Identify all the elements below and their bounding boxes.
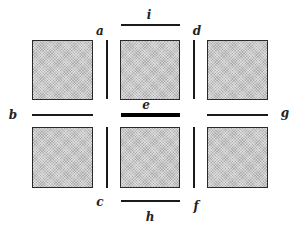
- label-b: b: [9, 109, 17, 121]
- segment-h: [121, 200, 180, 202]
- segment-e: [121, 113, 180, 117]
- square-top-left: [32, 40, 93, 100]
- label-i: i: [147, 9, 152, 21]
- square-bottom-middle: [120, 127, 180, 188]
- square-bottom-right: [207, 127, 268, 188]
- label-f: f: [193, 200, 198, 212]
- label-a: a: [96, 25, 104, 37]
- label-e: e: [142, 99, 150, 111]
- segment-a: [106, 40, 108, 99]
- segment-c: [106, 127, 108, 188]
- label-h: h: [146, 211, 155, 223]
- segment-g: [207, 114, 268, 116]
- label-g: g: [281, 107, 289, 119]
- square-bottom-left: [32, 127, 93, 188]
- label-d: d: [193, 25, 201, 37]
- segment-f: [193, 127, 195, 188]
- segment-d: [193, 40, 195, 99]
- segment-i: [121, 24, 180, 26]
- square-top-right: [207, 40, 268, 100]
- square-top-middle: [120, 40, 180, 100]
- segment-b: [32, 114, 93, 116]
- label-c: c: [96, 196, 103, 208]
